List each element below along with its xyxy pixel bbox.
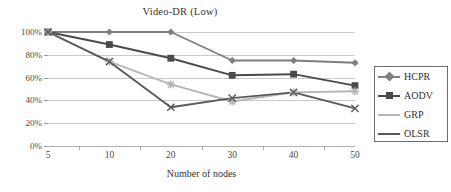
legend-swatch-grp-icon (378, 109, 400, 121)
legend-swatch-aodv-icon (378, 90, 400, 102)
data-point-grp-50 (351, 87, 359, 95)
legend-swatch-olsr-icon (378, 128, 400, 140)
x-axis-title: Number of nodes (48, 168, 355, 179)
data-point-hcpr-40 (290, 57, 297, 64)
data-point-aodv-40 (290, 71, 297, 78)
legend-swatch-hcpr-icon (378, 71, 400, 83)
legend-item-olsr[interactable]: OLSR (375, 124, 447, 143)
legend-item-aodv[interactable]: AODV (375, 86, 447, 105)
legend-label: HCPR (400, 71, 430, 82)
legend-label: OLSR (400, 128, 430, 139)
chart-container: Video-DR (Low) 0%20%40%60%80%100% 510203… (0, 0, 451, 192)
data-point-aodv-20 (167, 55, 174, 62)
data-point-hcpr-30 (229, 57, 236, 64)
series-line-olsr (48, 32, 355, 108)
legend-label: AODV (400, 90, 433, 101)
data-point-grp-20 (167, 80, 175, 88)
series-line-aodv (48, 32, 355, 86)
series-line-hcpr (48, 32, 355, 63)
legend-item-hcpr[interactable]: HCPR (375, 67, 447, 86)
chart-legend: HCPRAODVGRPOLSR (374, 66, 448, 142)
legend-label: GRP (400, 109, 423, 120)
data-point-aodv-10 (106, 41, 113, 48)
legend-item-grp[interactable]: GRP (375, 105, 447, 124)
data-point-hcpr-10 (106, 28, 113, 35)
data-point-hcpr-20 (167, 28, 174, 35)
data-point-aodv-30 (229, 72, 236, 79)
data-point-hcpr-50 (351, 59, 358, 66)
